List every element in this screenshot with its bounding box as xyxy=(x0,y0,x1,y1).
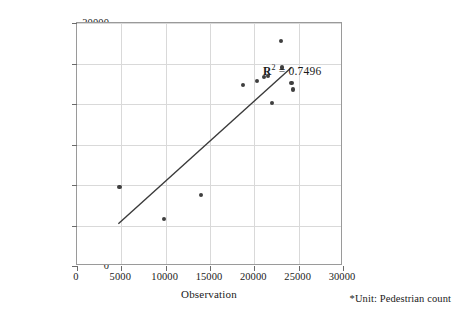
gridline-vertical xyxy=(254,23,255,264)
y-axis-tick xyxy=(72,64,77,65)
x-axis-tick xyxy=(254,266,255,271)
data-point xyxy=(162,217,166,221)
unit-footnote: *Unit: Pedestrian count xyxy=(350,293,451,304)
y-axis-tick xyxy=(72,145,77,146)
gridline-vertical xyxy=(121,23,122,264)
x-axis-tick xyxy=(299,266,300,271)
gridline-horizontal xyxy=(77,104,341,105)
data-point xyxy=(241,83,245,87)
data-point xyxy=(255,79,259,83)
data-point xyxy=(117,185,121,189)
plot-area: R2 = 0.7496 xyxy=(76,22,342,265)
gridline-horizontal xyxy=(77,226,341,227)
x-axis-tick xyxy=(77,266,78,271)
x-axis-tick xyxy=(343,266,344,271)
x-axis-tick xyxy=(121,266,122,271)
data-point xyxy=(291,87,295,91)
data-point xyxy=(199,193,203,197)
y-axis-tick xyxy=(72,185,77,186)
gridline-horizontal xyxy=(77,23,341,24)
y-axis-tick xyxy=(72,23,77,24)
r-squared-equals: = xyxy=(276,65,289,77)
y-axis-tick xyxy=(72,226,77,227)
gridline-vertical xyxy=(166,23,167,264)
r-squared-symbol: R xyxy=(263,65,272,77)
gridline-vertical xyxy=(299,23,300,264)
gridline-horizontal xyxy=(77,145,341,146)
x-axis-tick-label: 30000 xyxy=(307,271,377,282)
trendline xyxy=(77,23,341,264)
r-squared-value: 0.7496 xyxy=(289,65,322,77)
scatter-chart-figure: Simulation 05000100001500020000250003000… xyxy=(0,0,457,312)
y-axis-tick xyxy=(72,104,77,105)
x-axis-tick xyxy=(166,266,167,271)
x-axis-tick xyxy=(210,266,211,271)
data-point xyxy=(279,39,283,43)
data-point xyxy=(289,81,293,85)
r-squared-annotation: R2 = 0.7496 xyxy=(263,63,321,77)
gridline-vertical xyxy=(210,23,211,264)
